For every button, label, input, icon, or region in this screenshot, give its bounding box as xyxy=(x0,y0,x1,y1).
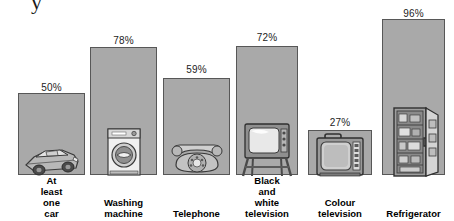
bar-group-refrigerator: 96% xyxy=(382,0,445,221)
category-label: At least one car xyxy=(35,175,69,219)
bar-group-black-and-white-television: 72% Black and whi xyxy=(236,0,298,221)
bar-rect[interactable] xyxy=(236,46,298,175)
bar-rect[interactable] xyxy=(18,93,85,175)
category-label: Washing machine xyxy=(104,197,143,219)
bar-value-label: 59% xyxy=(163,64,230,75)
bar-group-telephone: 59% Telephone xyxy=(163,0,230,221)
bar-value-label: 50% xyxy=(18,82,85,93)
bar-rect[interactable] xyxy=(163,78,230,175)
bar-group-colour-television: 27% Colour television xyxy=(308,0,372,221)
category-label: Colour television xyxy=(318,197,362,219)
bar-rect[interactable] xyxy=(308,130,372,175)
bar-group-at-least-one-car: 50% At least one car xyxy=(18,0,85,221)
bar-rect[interactable] xyxy=(90,47,157,175)
category-label: Black and white television xyxy=(245,175,289,219)
bar-rect[interactable] xyxy=(382,19,445,175)
bar-group-washing-machine: 78% Washing machine xyxy=(90,0,157,221)
bar-chart: y 50% At least one car 78 xyxy=(0,0,454,221)
bar-value-label: 72% xyxy=(236,32,298,43)
bar-value-label: 27% xyxy=(308,117,372,128)
bar-value-label: 78% xyxy=(90,35,157,46)
category-label: Telephone xyxy=(173,208,220,219)
bar-value-label: 96% xyxy=(382,8,445,19)
category-label: Refrigerator xyxy=(386,208,440,219)
